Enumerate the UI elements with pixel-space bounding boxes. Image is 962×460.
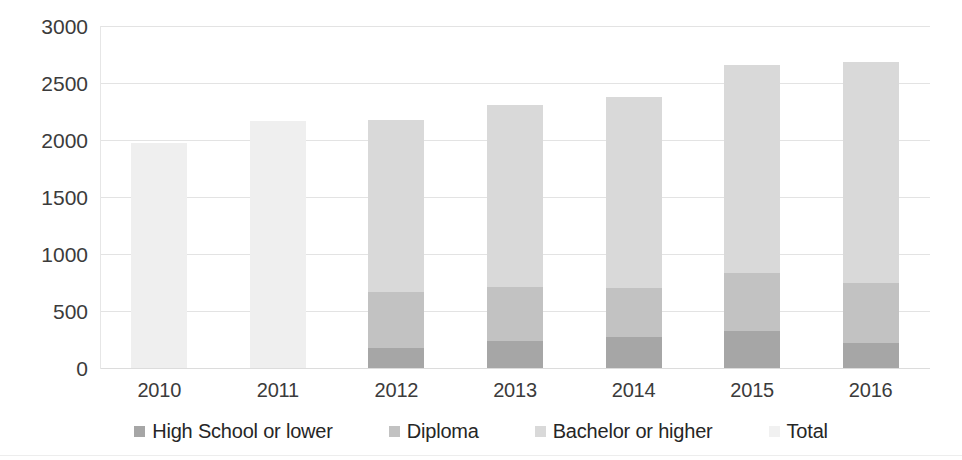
legend-item[interactable]: Diploma	[389, 419, 479, 443]
x-tick-label: 2011	[218, 378, 338, 402]
bar-segment-bachelor-or-higher	[368, 120, 424, 292]
y-tick-label: 2500	[0, 73, 88, 94]
bar-group	[843, 26, 899, 368]
y-tick-label: 1500	[0, 187, 88, 208]
x-tick-label: 2014	[574, 378, 694, 402]
bar-segment-total	[250, 121, 306, 368]
legend-item-label: Diploma	[407, 419, 479, 443]
bar-segment-diploma	[606, 288, 662, 337]
bar-segment-diploma	[368, 292, 424, 348]
bar-segment-diploma	[724, 273, 780, 331]
bar-group	[131, 26, 187, 368]
bar-segment-high-school-or-lower	[843, 343, 899, 368]
bar-segment-bachelor-or-higher	[606, 97, 662, 289]
y-axis-line	[100, 26, 101, 369]
y-tick-label: 2000	[0, 130, 88, 151]
bar-group	[250, 26, 306, 368]
legend-swatch-icon	[389, 426, 400, 437]
legend-swatch-icon	[769, 426, 780, 437]
bar-group	[606, 26, 662, 368]
bar-segment-bachelor-or-higher	[487, 105, 543, 287]
bar-group	[487, 26, 543, 368]
bar-segment-diploma	[843, 283, 899, 343]
bar-segment-bachelor-or-higher	[724, 65, 780, 273]
y-tick-label: 0	[0, 358, 88, 379]
bar-segment-high-school-or-lower	[606, 337, 662, 368]
page-edge-rule	[0, 455, 962, 456]
legend-item-label: Total	[787, 419, 828, 443]
bar-group	[724, 26, 780, 368]
legend-item-label: High School or lower	[152, 419, 333, 443]
x-tick-label: 2012	[336, 378, 456, 402]
x-tick-label: 2016	[811, 378, 931, 402]
legend-item-label: Bachelor or higher	[553, 419, 713, 443]
legend-item[interactable]: Total	[769, 419, 828, 443]
legend-swatch-icon	[535, 426, 546, 437]
x-tick-label: 2010	[99, 378, 219, 402]
bar-segment-high-school-or-lower	[368, 348, 424, 368]
x-tick-label: 2013	[455, 378, 575, 402]
y-tick-label: 3000	[0, 16, 88, 37]
legend-item[interactable]: Bachelor or higher	[535, 419, 713, 443]
bar-segment-diploma	[487, 287, 543, 341]
y-tick-label: 1000	[0, 244, 88, 265]
bar-segment-bachelor-or-higher	[843, 62, 899, 283]
legend-item[interactable]: High School or lower	[134, 419, 333, 443]
bar-segment-high-school-or-lower	[724, 331, 780, 368]
bar-segment-total	[131, 143, 187, 368]
bar-segment-high-school-or-lower	[487, 341, 543, 368]
x-tick-label: 2015	[692, 378, 812, 402]
chart-legend: High School or lowerDiplomaBachelor or h…	[0, 419, 962, 443]
stacked-bar-chart: 300025002000150010005000 201020112012201…	[0, 0, 962, 460]
gridline-0	[100, 368, 930, 369]
bar-group	[368, 26, 424, 368]
y-tick-label: 500	[0, 301, 88, 322]
legend-swatch-icon	[134, 426, 145, 437]
